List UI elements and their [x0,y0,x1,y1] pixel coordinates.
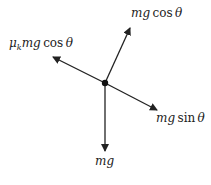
normal-force-arrow [105,28,130,83]
weight-force-label: mg [95,154,114,168]
parallel-force-arrow [105,83,157,110]
free-body-diagram: mg cos θ μkmg cos θ mg sin θ mg [0,0,211,185]
friction-force-arrow [53,57,105,83]
parallel-force-label: mg sin θ [156,111,205,125]
body-point [102,80,108,86]
friction-force-label: μkmg cos θ [9,36,73,55]
normal-force-label: mg cos θ [131,6,182,20]
